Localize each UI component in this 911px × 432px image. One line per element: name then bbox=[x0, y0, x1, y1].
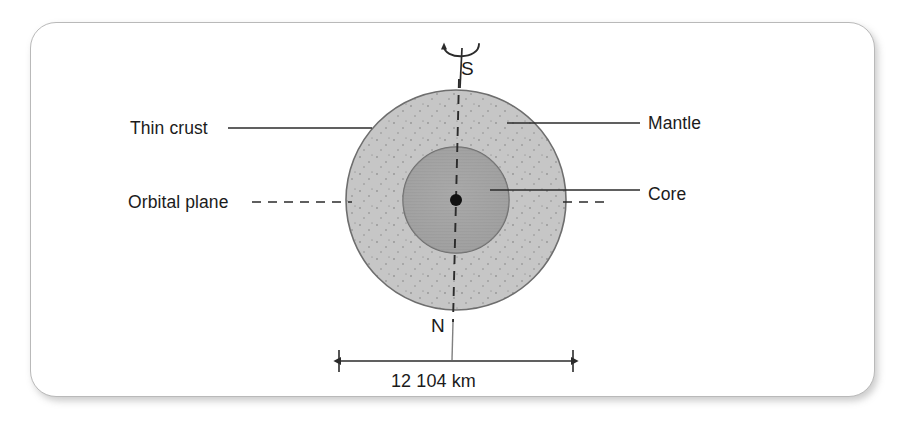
label-core: Core bbox=[648, 184, 686, 205]
label-mantle: Mantle bbox=[648, 113, 701, 134]
figure-page: Thin crust Orbital plane Mantle Core S N… bbox=[0, 0, 911, 432]
label-north-pole: N bbox=[431, 315, 445, 337]
label-thin-crust: Thin crust bbox=[130, 118, 208, 139]
label-south-pole: S bbox=[461, 58, 474, 80]
label-diameter-dimension: 12 104 km bbox=[391, 371, 476, 392]
label-orbital-plane: Orbital plane bbox=[128, 192, 229, 213]
